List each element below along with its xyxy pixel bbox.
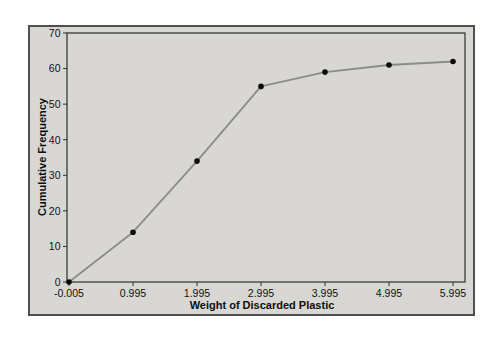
page-background: 010203040506070-0.0050.9951.9952.9953.99…	[0, 0, 492, 340]
y-tick-label: 30	[49, 169, 61, 181]
y-tick-label: 60	[49, 62, 61, 74]
plot-frame	[67, 33, 465, 282]
data-point	[258, 84, 264, 90]
y-tick-label: 20	[49, 205, 61, 217]
y-tick-label: 70	[49, 27, 61, 39]
y-tick-label: 40	[49, 134, 61, 146]
cumulative-frequency-chart: 010203040506070-0.0050.9951.9952.9953.99…	[30, 27, 473, 314]
data-point	[386, 62, 392, 68]
data-point	[450, 59, 456, 65]
x-axis-title: Weight of Discarded Plastic	[63, 297, 461, 313]
data-point	[130, 229, 136, 235]
data-point	[322, 69, 328, 75]
data-point	[194, 158, 200, 164]
chart-window: 010203040506070-0.0050.9951.9952.9953.99…	[28, 25, 475, 316]
y-tick-label: 0	[55, 276, 61, 288]
y-tick-label: 50	[49, 98, 61, 110]
y-axis-title: Cumulative Frequency	[34, 33, 50, 282]
data-line	[69, 62, 453, 283]
data-point	[66, 279, 72, 285]
y-tick-label: 10	[49, 240, 61, 252]
